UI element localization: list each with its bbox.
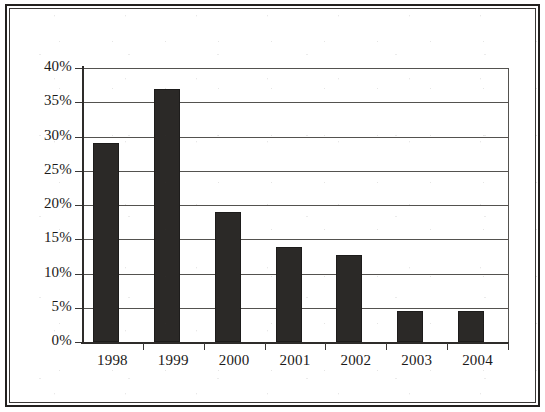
x-tick-label-2001: 2001 [265, 352, 326, 369]
gridline-40% [82, 68, 508, 69]
y-tick-label-35%: 35% [26, 92, 72, 109]
y-tick-label-5%: 5% [26, 298, 72, 315]
x-tick-label-2003: 2003 [386, 352, 447, 369]
y-tick-label-20%: 20% [26, 195, 72, 212]
x-tick-mark-6 [508, 343, 509, 350]
y-tick-label-40%: 40% [26, 58, 72, 75]
gridline-30% [82, 137, 508, 138]
gridline-25% [82, 171, 508, 172]
plot-area [82, 68, 508, 342]
x-axis-line [81, 342, 509, 344]
y-tick-mark-20% [75, 205, 82, 206]
y-tick-mark-30% [75, 137, 82, 138]
y-tick-mark-35% [75, 102, 82, 103]
gridline-35% [82, 102, 508, 103]
x-tick-mark-2 [265, 343, 266, 350]
y-tick-label-30%: 30% [26, 127, 72, 144]
bar-2001 [276, 247, 302, 342]
plot-right-border [508, 68, 509, 342]
y-tick-mark-25% [75, 171, 82, 172]
y-tick-label-25%: 25% [26, 161, 72, 178]
x-tick-label-2000: 2000 [204, 352, 265, 369]
y-axis-line [82, 66, 84, 344]
y-tick-label-0%: 0% [26, 332, 72, 349]
bar-2003 [397, 311, 423, 343]
x-tick-mark-5 [447, 343, 448, 350]
y-tick-label-15%: 15% [26, 229, 72, 246]
y-tick-mark-10% [75, 274, 82, 275]
x-tick-mark-4 [386, 343, 387, 350]
x-tick-mark-1 [204, 343, 205, 350]
gridline-20% [82, 205, 508, 206]
x-tick-mark-0 [143, 343, 144, 350]
gridline-15% [82, 239, 508, 240]
bar-1998 [93, 143, 119, 342]
y-tick-label-10%: 10% [26, 264, 72, 281]
y-tick-mark-40% [75, 68, 82, 69]
bar-chart-figure: 0%5%10%15%20%25%30%35%40% 19981999200020… [0, 0, 545, 412]
y-tick-mark-15% [75, 239, 82, 240]
bar-2002 [336, 255, 362, 342]
x-tick-label-1999: 1999 [143, 352, 204, 369]
bar-2000 [215, 212, 241, 342]
y-tick-mark-5% [75, 308, 82, 309]
bar-2004 [458, 311, 484, 343]
x-tick-label-2004: 2004 [447, 352, 508, 369]
x-tick-label-1998: 1998 [82, 352, 143, 369]
x-tick-mark-3 [325, 343, 326, 350]
bar-1999 [154, 89, 180, 342]
x-tick-label-2002: 2002 [325, 352, 386, 369]
